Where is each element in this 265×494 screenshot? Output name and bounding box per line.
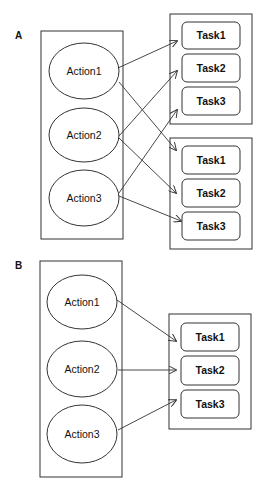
task-node: Task1: [181, 323, 239, 351]
action-task-diagram: A Action1 Action2 Action3 Task1 Task2 Ta…: [0, 0, 265, 494]
action-label: Action2: [66, 129, 101, 141]
task-node: Task3: [182, 87, 240, 115]
task-node: Task3: [181, 390, 239, 418]
action-node: Action2: [47, 341, 117, 397]
edge-arrow: [119, 110, 177, 193]
edge-arrow: [119, 82, 176, 150]
edge-arrow: [119, 138, 176, 193]
task-label: Task2: [197, 62, 226, 74]
panel-b: B Action1 Action2 Action3 Task1 Task2 Ta…: [15, 260, 251, 477]
edge-arrow: [118, 41, 177, 68]
task-label: Task3: [197, 95, 226, 107]
task-node: Task1: [182, 22, 240, 49]
task-node: Task2: [182, 54, 240, 82]
task-label: Task3: [197, 220, 226, 232]
task-node: Task3: [182, 212, 240, 240]
panel-label: B: [15, 260, 22, 271]
action-node: Action2: [49, 108, 119, 162]
panel-label: A: [15, 30, 22, 41]
task-node: Task2: [181, 356, 239, 385]
task-label: Task1: [197, 29, 226, 41]
action-label: Action3: [64, 428, 99, 440]
edge-arrow: [119, 71, 177, 136]
edge-arrow: [117, 300, 176, 341]
action-label: Action1: [64, 296, 99, 308]
edge-arrow: [119, 196, 181, 221]
edge-arrow: [118, 400, 176, 430]
action-node: Action3: [49, 170, 119, 226]
task-label: Task2: [196, 364, 225, 376]
task-label: Task1: [197, 154, 226, 166]
action-node: Action1: [47, 275, 117, 329]
panel-a: A Action1 Action2 Action3 Task1 Task2 Ta…: [15, 14, 252, 249]
action-node: Action3: [47, 405, 117, 463]
action-label: Action1: [66, 65, 101, 77]
task-label: Task3: [196, 398, 225, 410]
task-label: Task2: [197, 187, 226, 199]
action-label: Action3: [66, 192, 101, 204]
action-label: Action2: [64, 363, 99, 375]
action-node: Action1: [49, 43, 119, 99]
task-node: Task1: [182, 146, 240, 174]
task-node: Task2: [182, 179, 240, 207]
task-label: Task1: [196, 331, 225, 343]
